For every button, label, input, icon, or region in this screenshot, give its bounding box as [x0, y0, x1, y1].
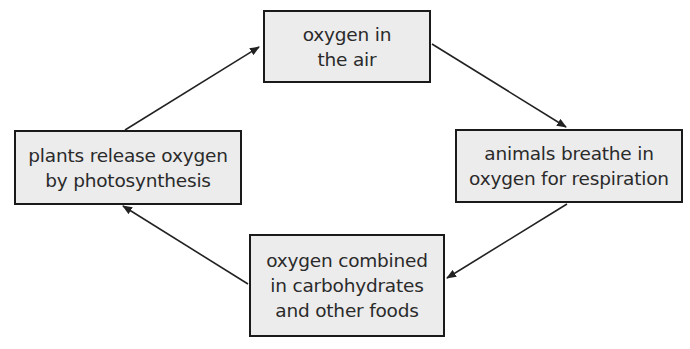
node-text-line: in carbohydrates	[270, 273, 423, 298]
node-text-line: animals breathe in	[484, 141, 653, 166]
node-text-line: oxygen in	[303, 22, 391, 47]
arrow-foods-to-plants	[123, 206, 248, 284]
node-text-line: the air	[318, 47, 377, 72]
node-text-line: and other foods	[275, 298, 418, 323]
node-text-line: plants release oxygen	[28, 143, 227, 168]
node-text-line: by photosynthesis	[45, 168, 211, 193]
node-oxygen-in-air: oxygen in the air	[263, 10, 431, 83]
node-animals-breathe: animals breathe in oxygen for respiratio…	[455, 129, 683, 203]
node-text-line: oxygen for respiration	[469, 166, 669, 191]
arrow-animals-to-foods	[447, 204, 567, 278]
node-plants-release: plants release oxygen by photosynthesis	[14, 130, 242, 205]
node-text-line: oxygen combined	[266, 248, 428, 273]
node-oxygen-in-foods: oxygen combined in carbohydrates and oth…	[249, 234, 445, 337]
arrow-plants-to-air	[125, 47, 259, 130]
arrow-air-to-animals	[432, 44, 566, 127]
